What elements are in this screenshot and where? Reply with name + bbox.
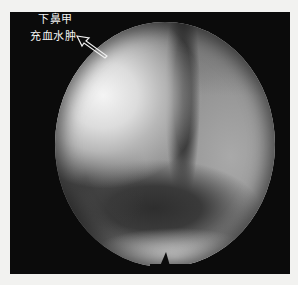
endoscopy-frame: 下鼻甲 充血水肿 xyxy=(10,12,290,274)
annotation-arrow-icon xyxy=(10,12,290,274)
